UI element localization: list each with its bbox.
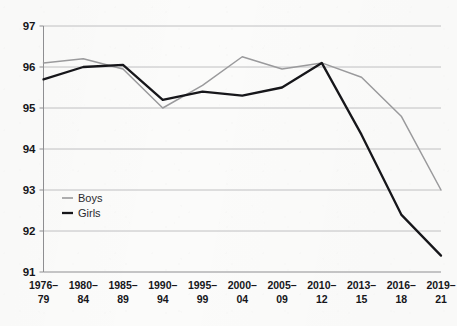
x-tick-label: 2000–04 bbox=[228, 279, 257, 305]
line-chart: 91929394959697 1976–791980–841985–891990… bbox=[0, 0, 457, 326]
x-tick-label: 2019–21 bbox=[426, 279, 455, 305]
x-tick-label: 1995–99 bbox=[188, 279, 217, 305]
y-tick-label: 95 bbox=[23, 102, 36, 114]
y-tick-label: 91 bbox=[23, 266, 36, 278]
x-tick-label: 2010–12 bbox=[307, 279, 336, 305]
legend-label-boys: Boys bbox=[78, 192, 103, 204]
y-tick-label: 97 bbox=[23, 20, 36, 32]
x-tick-label: 1985–89 bbox=[108, 279, 137, 305]
x-tick-label: 1980–84 bbox=[69, 279, 98, 305]
series-line-girls bbox=[44, 63, 442, 256]
y-tick-label: 92 bbox=[23, 225, 36, 237]
x-tick-label: 2005–09 bbox=[267, 279, 296, 305]
y-tick-label: 93 bbox=[23, 184, 36, 196]
x-tick-label: 2016–18 bbox=[387, 279, 416, 305]
gridlines bbox=[44, 26, 442, 272]
chart-legend: BoysGirls bbox=[62, 192, 103, 219]
x-tick-label: 1976–79 bbox=[29, 279, 58, 305]
y-tick-label: 94 bbox=[23, 143, 36, 155]
series-line-boys bbox=[44, 57, 442, 190]
chart-canvas: 91929394959697 1976–791980–841985–891990… bbox=[0, 0, 457, 326]
y-axis-tick-labels: 91929394959697 bbox=[23, 20, 44, 278]
x-axis-tick-labels: 1976–791980–841985–891990–941995–992000–… bbox=[29, 279, 456, 305]
x-tick-label: 2013–15 bbox=[347, 279, 376, 305]
x-tick-label: 1990–94 bbox=[148, 279, 177, 305]
data-series bbox=[44, 57, 442, 256]
y-tick-label: 96 bbox=[23, 61, 36, 73]
legend-label-girls: Girls bbox=[78, 207, 101, 219]
